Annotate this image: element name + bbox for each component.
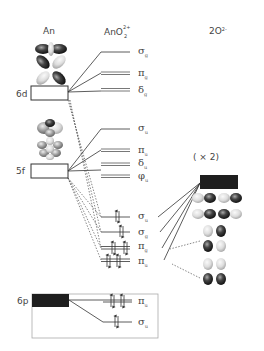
ao-box-o2p (200, 175, 238, 189)
d-orbital-dz2-icon (35, 42, 67, 56)
mo-level-sigma-g-bond (101, 226, 130, 237)
f-orbital-icon-2 (37, 137, 63, 160)
label-pi-u-top: πu (138, 144, 149, 157)
mo-diagram: σg πg δg σu πu δu φu σu σg πg πu πu σu (0, 0, 264, 351)
label-sigma-u-top: σu (138, 122, 149, 135)
label-pi-u-6p: πu (138, 295, 149, 308)
label-sigma-u-6p: σu (138, 316, 149, 329)
o-dotted-lines (170, 241, 200, 278)
label-pi-g-bond: πg (138, 240, 149, 254)
label-sigma-u-bond: σu (138, 210, 149, 223)
f-orbital-icon-1 (37, 119, 63, 137)
mo-level-pi-g-top (101, 72, 130, 75)
label-pi-u-bond: πu (138, 255, 149, 268)
o-pi-combo-2-icon (203, 258, 226, 285)
6p-to-sigma-u-line (69, 300, 103, 322)
ao-box-6d (31, 86, 68, 100)
ao-box-5f (31, 164, 68, 178)
label-sigma-g-bond: σg (138, 226, 149, 240)
mo-level-delta-u (101, 163, 130, 166)
mo-level-delta-g (101, 89, 130, 92)
mo-level-pi-u-top (101, 149, 130, 152)
dotted-correlation-lines (68, 100, 101, 260)
mo-level-sigma-u-6p (103, 316, 132, 327)
6d-correlation-lines (68, 52, 101, 92)
o-sigma-combo-1-icon (192, 193, 242, 203)
mo-level-pi-u-6p (103, 295, 132, 307)
mo-level-sigma-u-bond (101, 211, 130, 222)
o-pi-combo-1-icon (203, 225, 226, 252)
label-sigma-g-top: σg (138, 45, 149, 59)
label-phi-u: φu (138, 170, 149, 183)
ao-box-6p (32, 294, 69, 307)
label-delta-u: δu (138, 157, 148, 170)
mo-labels: σg πg δg σu πu δu φu σu σg πg πu πu σu (138, 45, 149, 329)
label-pi-g-top: πg (138, 67, 149, 81)
d-orbital-dxy-icon (34, 53, 68, 87)
label-delta-g: δg (138, 84, 148, 98)
mo-level-pi-u-bond (101, 255, 130, 267)
o-sigma-combo-2-icon (192, 209, 242, 219)
mo-level-pi-g-bond (101, 242, 130, 254)
mo-level-phi-u (101, 175, 130, 178)
